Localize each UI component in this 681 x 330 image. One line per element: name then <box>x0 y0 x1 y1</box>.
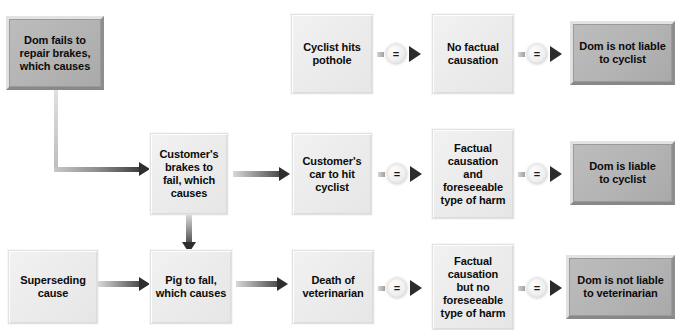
connector-stub <box>378 172 385 177</box>
arrow-pig-to-death-vet <box>236 277 288 291</box>
arrow-customer-brakes-to-car-hits <box>233 167 290 181</box>
arrowhead-icon <box>550 166 562 182</box>
arrowhead-icon <box>550 280 562 296</box>
arrowhead-icon <box>410 166 422 182</box>
node-customer-car-hits[interactable]: Customer's car to hit cyclist <box>292 133 372 215</box>
arrow-superseding-to-pig <box>98 277 150 291</box>
connector-dom-fails-to-customer-brakes <box>54 90 154 178</box>
equals-symbol: = <box>385 43 407 65</box>
node-no-factual-causation[interactable]: No factual causation <box>432 14 514 94</box>
node-pig-to-fall[interactable]: Pig to fall, which causes <box>150 250 232 324</box>
connector-stub <box>518 172 525 177</box>
node-dom-fails[interactable]: Dom fails to repair brakes, which causes <box>6 16 104 90</box>
node-factual-no-foreseeable[interactable]: Factual causation but no foreseeable typ… <box>432 244 514 330</box>
equals-connector-top-1: = <box>377 43 421 65</box>
equals-symbol: = <box>526 277 548 299</box>
node-customer-brakes[interactable]: Customer's brakes to fail, which causes <box>150 133 228 215</box>
connector-stub <box>378 286 385 291</box>
equals-symbol: = <box>386 163 408 185</box>
flowchart-canvas: Dom fails to repair brakes, which causes… <box>0 0 681 330</box>
connector-stub <box>377 52 384 57</box>
node-death-of-veterinarian[interactable]: Death of veterinarian <box>292 250 374 324</box>
node-dom-not-liable-vet[interactable]: Dom is not liable to veterinarian <box>566 255 675 319</box>
arrowhead-icon <box>550 46 562 62</box>
equals-symbol: = <box>526 43 548 65</box>
connector-stub <box>518 286 525 291</box>
equals-connector-bot-1: = <box>378 277 422 299</box>
arrowhead-icon <box>410 280 422 296</box>
node-factual-and-foreseeable[interactable]: Factual causation and foreseeable type o… <box>432 129 514 219</box>
node-superseding-cause[interactable]: Superseding cause <box>8 250 98 324</box>
node-dom-not-liable-cyclist[interactable]: Dom is not liable to cyclist <box>570 21 675 85</box>
equals-symbol: = <box>526 163 548 185</box>
equals-connector-top-2: = <box>518 43 562 65</box>
equals-connector-mid-1: = <box>378 163 422 185</box>
equals-connector-mid-2: = <box>518 163 562 185</box>
connector-stub <box>518 52 525 57</box>
equals-connector-bot-2: = <box>518 277 562 299</box>
node-cyclist-pothole[interactable]: Cyclist hits pothole <box>291 14 373 94</box>
equals-symbol: = <box>386 277 408 299</box>
arrowhead-icon <box>409 46 421 62</box>
node-dom-liable-cyclist[interactable]: Dom is liable to cyclist <box>570 141 675 205</box>
arrow-customer-brakes-to-pig-to-fall <box>182 215 196 253</box>
